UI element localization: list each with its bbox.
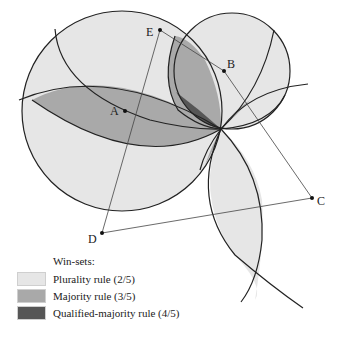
point-c-marker xyxy=(310,196,314,200)
qualified-majority-label: Qualified-majority rule (4/5) xyxy=(53,306,179,320)
legend-item-majority: Majority rule (3/5) xyxy=(17,289,217,303)
point-e-label: E xyxy=(146,25,153,39)
point-a-marker xyxy=(123,109,127,113)
majority-label: Majority rule (3/5) xyxy=(53,289,135,303)
legend-item-plurality: Plurality rule (2/5) xyxy=(17,272,217,286)
point-b-label: B xyxy=(227,57,235,71)
point-c-label: C xyxy=(317,194,325,208)
legend-item-qualified-majority: Qualified-majority rule (4/5) xyxy=(17,306,217,320)
legend-title: Win-sets: xyxy=(53,255,95,267)
majority-swatch xyxy=(17,289,46,303)
point-d-label: D xyxy=(88,232,97,246)
point-b-marker xyxy=(222,69,226,73)
plurality-label: Plurality rule (2/5) xyxy=(53,272,135,286)
point-a-label: A xyxy=(110,104,119,118)
point-e-marker xyxy=(158,28,162,32)
plurality-swatch xyxy=(17,272,46,286)
point-d-marker xyxy=(100,231,104,235)
qualified-majority-swatch xyxy=(17,306,46,320)
